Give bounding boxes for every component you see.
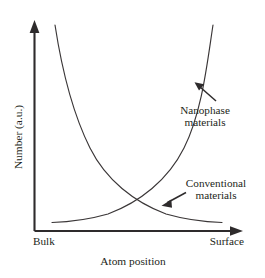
conventional-label-line2: materials xyxy=(195,189,236,201)
schematic-figure: Number (a.u.) Bulk Surface Atom position… xyxy=(0,0,265,278)
nanophase-label-line1: Nanophase xyxy=(180,104,230,116)
x-axis-start-label: Bulk xyxy=(33,235,55,247)
x-axis-end-label: Surface xyxy=(210,235,244,247)
conventional-label-line1: Conventional xyxy=(186,177,246,189)
y-axis-title: Number (a.u.) xyxy=(12,105,25,169)
nanophase-label-line2: materials xyxy=(184,116,225,128)
x-axis-title: Atom position xyxy=(100,255,166,267)
